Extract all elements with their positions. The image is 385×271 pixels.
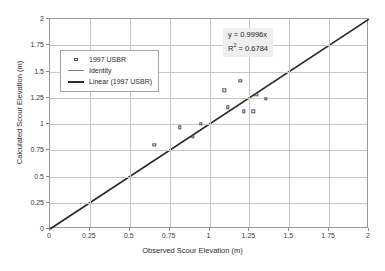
x-tick-label: 2 xyxy=(366,232,370,239)
regression-annotation: y = 0.9996x R2 = 0.6784 xyxy=(223,28,273,57)
equation-text: y = 0.9996x xyxy=(228,30,268,40)
gridline-horizontal xyxy=(50,150,367,151)
chart-legend: 1997 USBR Identity Linear (1997 USBR) xyxy=(60,50,159,92)
y-tick-label: 0.5 xyxy=(34,172,44,179)
legend-item-usbr: 1997 USBR xyxy=(65,54,152,65)
x-tick-mark xyxy=(49,228,50,231)
legend-label: Linear (1997 USBR) xyxy=(87,78,152,85)
x-tick-mark xyxy=(328,228,329,231)
gridline-horizontal xyxy=(50,203,367,204)
y-tick-mark xyxy=(46,123,49,124)
scatter-chart: 00.250.50.7511.251.51.75200.250.50.7511.… xyxy=(0,0,385,271)
y-tick-mark xyxy=(46,176,49,177)
thick-line-icon xyxy=(65,81,87,83)
data-point-marker xyxy=(255,93,258,96)
y-tick-label: 2 xyxy=(40,15,44,22)
x-tick-label: 0.25 xyxy=(82,232,96,239)
gridline-vertical xyxy=(170,19,171,227)
y-tick-mark xyxy=(46,149,49,150)
data-point-marker xyxy=(199,122,202,125)
y-axis-title: Calculated Scour Elevation (m) xyxy=(15,38,24,188)
legend-item-identity: Identity xyxy=(65,65,152,76)
open-square-marker-icon xyxy=(65,58,87,61)
data-point-marker xyxy=(239,79,242,82)
data-point-marker xyxy=(251,110,254,113)
y-tick-label: 1.25 xyxy=(30,93,44,100)
y-tick-label: 0.25 xyxy=(30,198,44,205)
thin-line-icon xyxy=(65,70,87,71)
y-tick-label: 1 xyxy=(40,120,44,127)
y-tick-label: 1.75 xyxy=(30,41,44,48)
gridline-horizontal xyxy=(50,177,367,178)
legend-label: 1997 USBR xyxy=(87,56,126,63)
x-tick-label: 1 xyxy=(207,232,211,239)
gridline-vertical xyxy=(329,19,330,227)
x-tick-mark xyxy=(89,228,90,231)
legend-label: Identity xyxy=(87,67,112,74)
r-squared-text: R2 = 0.6784 xyxy=(228,40,268,54)
y-tick-mark xyxy=(46,44,49,45)
x-tick-mark xyxy=(169,228,170,231)
x-tick-label: 0.5 xyxy=(124,232,134,239)
x-axis-title: Observed Scour Elevation (m) xyxy=(0,246,385,255)
x-tick-mark xyxy=(368,228,369,231)
y-tick-mark xyxy=(46,18,49,19)
data-point-marker xyxy=(223,89,226,92)
data-point-marker xyxy=(226,106,229,109)
gridline-vertical xyxy=(289,19,290,227)
x-tick-label: 1.25 xyxy=(242,232,256,239)
x-tick-label: 1.5 xyxy=(283,232,293,239)
x-tick-mark xyxy=(129,228,130,231)
gridline-horizontal xyxy=(50,45,367,46)
y-tick-mark xyxy=(46,97,49,98)
y-tick-label: 1.5 xyxy=(34,67,44,74)
data-point-marker xyxy=(264,97,267,100)
x-tick-mark xyxy=(288,228,289,231)
x-tick-label: 0.75 xyxy=(162,232,176,239)
data-point-marker xyxy=(178,125,181,128)
legend-item-linear-fit: Linear (1997 USBR) xyxy=(65,76,152,87)
y-tick-mark xyxy=(46,228,49,229)
data-point-marker xyxy=(191,135,194,138)
x-tick-mark xyxy=(248,228,249,231)
x-tick-mark xyxy=(209,228,210,231)
gridline-vertical xyxy=(210,19,211,227)
data-point-marker xyxy=(242,110,245,113)
gridline-horizontal xyxy=(50,98,367,99)
y-tick-label: 0.75 xyxy=(30,146,44,153)
y-tick-mark xyxy=(46,202,49,203)
x-tick-label: 0 xyxy=(47,232,51,239)
data-point-marker xyxy=(153,143,156,146)
y-tick-label: 0 xyxy=(40,225,44,232)
x-tick-label: 1.75 xyxy=(321,232,335,239)
gridline-horizontal xyxy=(50,124,367,125)
y-tick-mark xyxy=(46,71,49,72)
